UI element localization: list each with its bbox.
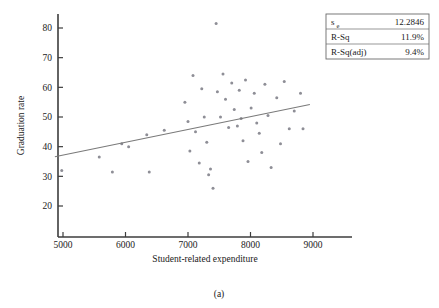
data-point <box>270 166 273 169</box>
data-point <box>200 87 203 90</box>
data-point <box>216 90 219 93</box>
data-point <box>279 142 282 145</box>
data-point <box>247 160 250 163</box>
data-point <box>192 74 195 77</box>
regression-line <box>55 105 310 157</box>
data-point <box>219 116 222 119</box>
data-point <box>230 81 233 84</box>
data-point <box>233 108 236 111</box>
data-point <box>60 169 63 172</box>
y-tick-label: 50 <box>43 112 53 122</box>
data-point <box>203 116 206 119</box>
y-tick-label: 60 <box>43 83 53 93</box>
stats-row-label: s <box>331 17 335 27</box>
data-point <box>215 22 218 25</box>
data-point <box>258 132 261 135</box>
x-tick-label: 9000 <box>304 240 323 250</box>
data-point <box>187 120 190 123</box>
x-tick-label: 6000 <box>116 240 135 250</box>
data-point <box>238 89 241 92</box>
data-point <box>293 110 296 113</box>
data-point <box>205 141 208 144</box>
y-tick-label: 40 <box>43 142 53 152</box>
data-point <box>244 78 247 81</box>
stats-row-label: R-Sq(adj) <box>331 47 367 57</box>
axis-tick-labels: 5000600070008000900020304050607080 <box>43 23 323 250</box>
data-point <box>194 130 197 133</box>
y-tick-label: 70 <box>43 53 53 63</box>
stats-row-label: R-Sq <box>331 32 350 42</box>
statistics-box: se12.2846R-Sq11.9%R-Sq(adj)9.4% <box>326 14 429 59</box>
data-point <box>198 161 201 164</box>
x-tick-label: 8000 <box>241 240 260 250</box>
data-point <box>288 127 291 130</box>
data-point <box>111 170 114 173</box>
data-point <box>255 121 258 124</box>
data-point <box>302 127 305 130</box>
data-point <box>183 101 186 104</box>
scatter-plot: 5000600070008000900020304050607080 Stude… <box>0 0 439 308</box>
figure-caption: (a) <box>214 289 225 300</box>
y-tick-label: 30 <box>43 172 53 182</box>
data-point <box>212 187 215 190</box>
data-point <box>236 124 239 127</box>
data-point <box>224 98 227 101</box>
stats-row-value: 12.2846 <box>395 17 425 27</box>
data-point <box>227 126 230 129</box>
scatter-figure: 5000600070008000900020304050607080 Stude… <box>0 0 439 308</box>
data-point <box>242 139 245 142</box>
data-point <box>145 133 148 136</box>
data-point <box>253 92 256 95</box>
regression-fit-line <box>55 105 310 157</box>
x-tick-label: 7000 <box>179 240 198 250</box>
y-tick-label: 80 <box>43 23 53 33</box>
data-point <box>250 107 253 110</box>
y-tick-label: 20 <box>43 201 53 211</box>
y-axis-label: Graduation rate <box>16 96 26 155</box>
stats-row-value: 9.4% <box>405 47 424 57</box>
data-point <box>263 83 266 86</box>
data-points <box>60 22 304 190</box>
x-axis-label: Student-related expenditure <box>152 254 257 264</box>
data-point <box>163 129 166 132</box>
data-point <box>209 167 212 170</box>
data-point <box>148 170 151 173</box>
stats-row-label-subscript: e <box>337 22 340 29</box>
data-point <box>267 114 270 117</box>
x-tick-label: 5000 <box>54 240 73 250</box>
data-point <box>283 80 286 83</box>
axis-ticks <box>58 28 313 237</box>
data-point <box>98 156 101 159</box>
data-point <box>222 72 225 75</box>
data-point <box>299 92 302 95</box>
data-point <box>127 145 130 148</box>
data-point <box>207 173 210 176</box>
data-point <box>260 151 263 154</box>
data-point <box>188 150 191 153</box>
data-point <box>275 96 278 99</box>
stats-row-value: 11.9% <box>401 32 424 42</box>
